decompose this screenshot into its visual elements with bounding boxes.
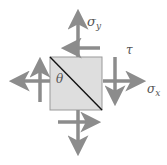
tau-label: τ <box>126 43 133 57</box>
theta-label: θ <box>56 72 64 86</box>
sigma-x-label: σx <box>147 82 160 98</box>
sigma-y-label: σy <box>87 14 102 31</box>
stress-element-diagram: σy τ σx θ <box>0 0 167 165</box>
